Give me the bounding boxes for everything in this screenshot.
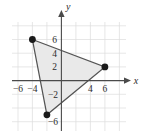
y-tick-label: 4: [52, 49, 57, 59]
y-tick-label: 2: [52, 62, 57, 72]
x-tick-label: 6: [103, 84, 108, 94]
x-tick-label: −6: [13, 84, 23, 94]
x-axis-label: x: [133, 75, 139, 86]
x-tick-label: 4: [88, 84, 93, 94]
graph-canvas: −6 −4 4 6 6 4 2 −2 −6 x y: [0, 0, 144, 136]
y-tick-label: 6: [52, 35, 57, 45]
coordinate-plane-figure: −6 −4 4 6 6 4 2 −2 −6 x y: [0, 0, 144, 136]
y-tick-label: −2: [48, 90, 58, 100]
vertex-point-b: [102, 64, 109, 71]
y-axis-label: y: [65, 1, 71, 12]
vertex-point-a: [29, 36, 36, 43]
y-tick-label: −6: [48, 117, 58, 127]
x-tick-label: −4: [27, 84, 37, 94]
